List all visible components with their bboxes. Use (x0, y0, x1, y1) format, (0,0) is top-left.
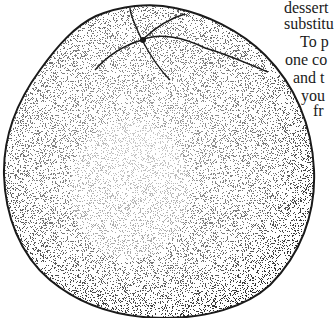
book-page: dessert substitu To p one co and t you f… (0, 0, 322, 318)
orange-illustration (0, 0, 322, 318)
